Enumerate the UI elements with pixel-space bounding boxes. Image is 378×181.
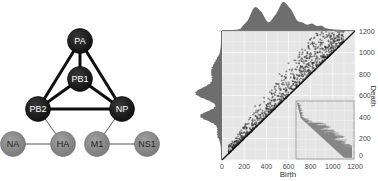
x-tick-label: 1200 bbox=[347, 163, 363, 170]
top-marginal-histogram bbox=[219, 2, 355, 31]
node-label: NP bbox=[116, 104, 129, 114]
node-label: NS1 bbox=[138, 139, 156, 149]
scatter-plot: 0200400600800100012000200400600800100012… bbox=[190, 0, 378, 181]
node-label: M1 bbox=[91, 139, 104, 149]
nodes: NAHAM1NS1PAPB1PB2NP bbox=[1, 29, 160, 157]
x-tick-label: 600 bbox=[283, 163, 295, 170]
network-diagram: NAHAM1NS1PAPB1PB2NP bbox=[0, 0, 190, 181]
node-na: NA bbox=[1, 132, 26, 157]
node-pb2: PB2 bbox=[26, 97, 51, 122]
y-tick-label: 200 bbox=[359, 135, 371, 142]
left-marginal-histogram bbox=[195, 31, 222, 160]
node-label: HA bbox=[57, 139, 70, 149]
node-label: NA bbox=[7, 139, 20, 149]
y-tick-label: 400 bbox=[359, 114, 371, 121]
y-tick-label: 1200 bbox=[359, 28, 375, 35]
y-tick-label: 800 bbox=[359, 71, 371, 78]
network-graph: NAHAM1NS1PAPB1PB2NP bbox=[0, 0, 190, 181]
node-m1: M1 bbox=[85, 132, 110, 157]
y-tick-label: 1000 bbox=[359, 49, 375, 56]
node-label: PB1 bbox=[71, 74, 88, 84]
node-ha: HA bbox=[51, 132, 76, 157]
node-label: PA bbox=[74, 36, 85, 46]
x-tick-label: 400 bbox=[260, 163, 272, 170]
x-axis-label: Birth bbox=[280, 170, 296, 179]
node-np: NP bbox=[110, 97, 135, 122]
y-axis-label: Death bbox=[369, 85, 378, 106]
node-ns1: NS1 bbox=[135, 132, 160, 157]
node-pb1: PB1 bbox=[68, 67, 93, 92]
x-tick-label: 200 bbox=[238, 163, 250, 170]
y-tick-label: 0 bbox=[359, 152, 363, 159]
node-pa: PA bbox=[68, 29, 93, 54]
barcode-inset bbox=[296, 101, 354, 159]
x-tick-label: 0 bbox=[220, 163, 224, 170]
node-label: PB2 bbox=[29, 104, 46, 114]
x-tick-label: 800 bbox=[305, 163, 317, 170]
x-tick-label: 1000 bbox=[325, 163, 341, 170]
persistence-diagram: 0200400600800100012000200400600800100012… bbox=[190, 0, 378, 181]
